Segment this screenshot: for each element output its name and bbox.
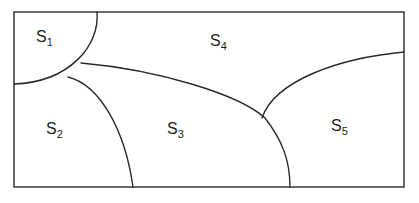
partition-diagram: S1 S2 S3 S4 S5: [0, 0, 419, 203]
label-s2: S2: [46, 120, 63, 140]
label-s3: S3: [167, 120, 184, 140]
boundary-s2-s3: [68, 77, 133, 187]
label-s1: S1: [36, 28, 53, 48]
boundary-s4-s5: [262, 52, 404, 118]
outer-boundary: [14, 12, 404, 187]
label-s5: S5: [331, 117, 348, 137]
boundary-s1: [14, 12, 97, 84]
label-s4: S4: [210, 32, 227, 52]
boundary-s4-s3-s5: [81, 63, 290, 187]
